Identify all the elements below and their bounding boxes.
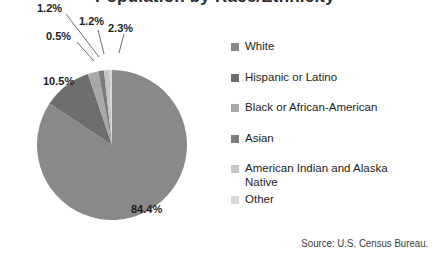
slice-label-other: 0.5% xyxy=(46,30,71,42)
legend-item-label: American Indian and Alaska Native xyxy=(245,162,388,189)
legend-item-label: Hispanic or Latino xyxy=(245,71,337,85)
slice-label-black: 2.3% xyxy=(108,22,133,34)
slice-label-hispanic: 10.5% xyxy=(43,75,74,87)
slice-label-white: 84.4% xyxy=(131,203,162,215)
legend-swatch-hispanic-icon xyxy=(231,74,239,82)
slice-label-asian: 1.2% xyxy=(37,2,62,14)
chart-canvas: Population by Race/Ethnicity 1.2% 1.2% 2… xyxy=(0,0,434,255)
pie-chart: 1.2% 1.2% 2.3% 0.5% 84.4% 10.5% xyxy=(0,0,230,255)
legend-item-label: White xyxy=(245,40,274,54)
legend-item-hispanic-or-latino[interactable]: Hispanic or Latino xyxy=(231,71,434,85)
legend-swatch-other-icon xyxy=(231,196,239,204)
legend-item-asian[interactable]: Asian xyxy=(231,132,434,146)
slice-label-native: 1.2% xyxy=(79,15,104,27)
legend-item-black-or-african-american[interactable]: Black or African-American xyxy=(231,101,434,115)
pie-chart-svg xyxy=(0,0,230,255)
legend-swatch-asian-icon xyxy=(231,135,239,143)
legend-item-white[interactable]: White xyxy=(231,40,434,54)
legend-swatch-native-icon xyxy=(231,165,239,173)
chart-legend: WhiteHispanic or LatinoBlack or African-… xyxy=(231,40,434,224)
source-note: Source: U.S. Census Bureau. xyxy=(301,237,428,249)
legend-item-other[interactable]: Other xyxy=(231,193,434,207)
legend-item-american-indian-and-alaska-native[interactable]: American Indian and Alaska Native xyxy=(231,162,434,189)
legend-item-label: Black or African-American xyxy=(245,101,377,115)
legend-item-label: Asian xyxy=(245,132,274,146)
legend-item-label: Other xyxy=(245,193,274,207)
legend-swatch-black-icon xyxy=(231,104,239,112)
legend-swatch-white-icon xyxy=(231,43,239,51)
